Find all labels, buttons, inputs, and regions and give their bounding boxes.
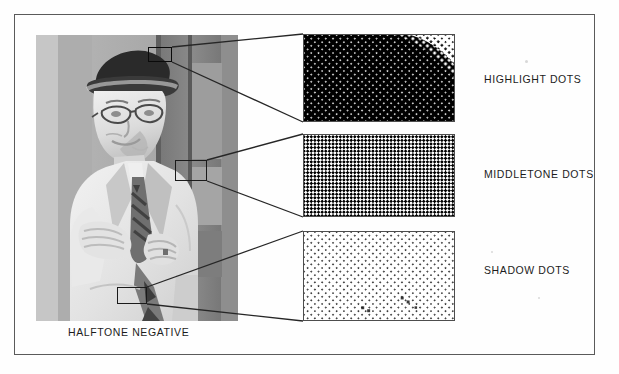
page-speckle (525, 60, 528, 63)
callout-rect-middletone (175, 160, 207, 181)
label-shadow-dots: SHADOW DOTS (484, 264, 570, 276)
label-highlight-dots: HIGHLIGHT DOTS (484, 73, 581, 85)
label-middletone-dots: MIDDLETONE DOTS (484, 168, 594, 180)
page-speckle (538, 297, 540, 299)
caption-halftone-negative: HALFTONE NEGATIVE (68, 326, 189, 338)
halftone-negative-photo (36, 35, 238, 321)
callout-rect-shadow (117, 287, 147, 304)
page-speckle (491, 251, 493, 253)
patch-shadow-dots (303, 231, 455, 321)
patch-middletone-dots (303, 134, 455, 217)
halftone-figure: HIGHLIGHT DOTS MIDDLETONE DOTS SHADOW DO… (0, 0, 619, 374)
callout-rect-highlight (148, 47, 172, 62)
patch-highlight-dots (303, 34, 455, 122)
